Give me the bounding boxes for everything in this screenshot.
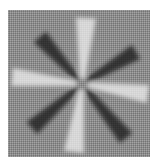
starburst-graphic (8, 10, 150, 157)
starburst-image (8, 10, 150, 157)
